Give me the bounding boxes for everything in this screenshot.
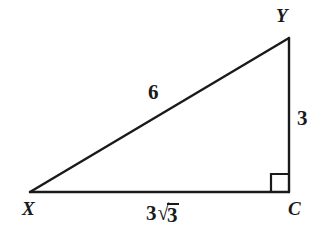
side-length-label-vertical-leg: 3 (297, 108, 308, 129)
side-length-label-hypotenuse: 6 (148, 82, 159, 103)
radical-sign-icon: √ (158, 202, 170, 224)
vertex-label-y: Y (276, 6, 288, 25)
side-hypotenuse-line (30, 38, 289, 192)
radical-body: √ 3 (158, 203, 179, 226)
right-angle-marker-icon (271, 174, 289, 192)
vertex-label-x: X (22, 199, 35, 218)
vertex-label-c: C (288, 199, 301, 218)
side-length-label-horizontal-leg: 3 √ 3 (146, 203, 179, 226)
radical-coefficient: 3 (146, 203, 157, 224)
triangle-drawing (0, 0, 322, 234)
radical-expression: 3 √ 3 (146, 203, 179, 226)
geometry-figure: Y X C 6 3 3 √ 3 (0, 0, 322, 234)
